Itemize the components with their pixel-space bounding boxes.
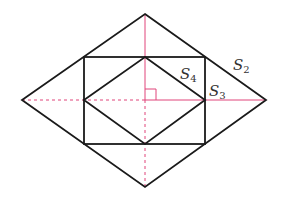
label-s3: S3: [209, 82, 226, 101]
right-angle-marker: [145, 89, 156, 100]
label-s4: S4: [180, 65, 197, 84]
label-s2: S2: [233, 56, 250, 75]
geometry-diagram: S2 S4 S3: [0, 0, 287, 200]
symmetry-axes: [22, 14, 266, 187]
